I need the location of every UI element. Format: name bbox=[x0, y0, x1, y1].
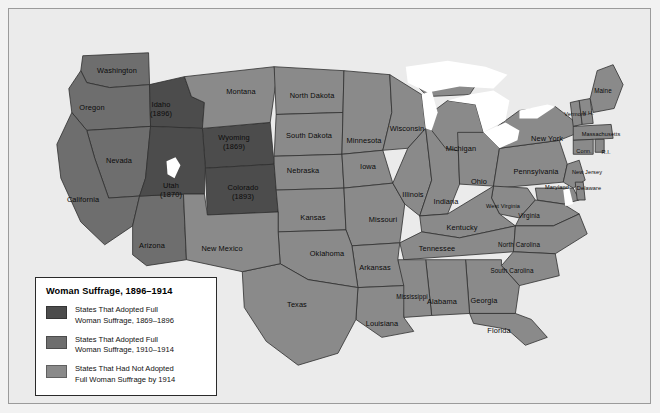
states-not-adopted bbox=[183, 65, 623, 365]
legend-label-1910-1914: States That Adopted Full Woman Suffrage,… bbox=[75, 335, 174, 357]
legend-line-2: Full Woman Suffrage by 1914 bbox=[75, 375, 175, 386]
legend-line-2: Woman Suffrage, 1869–1896 bbox=[75, 316, 174, 327]
legend-label-not-adopted: States That Had Not Adopted Full Woman S… bbox=[75, 364, 175, 386]
figure-frame: .st { stroke: #2f2f2f; stroke-width: 0.8… bbox=[8, 8, 651, 404]
legend-entry-not-adopted: States That Had Not Adopted Full Woman S… bbox=[46, 364, 208, 386]
map-figure: .st { stroke: #2f2f2f; stroke-width: 0.8… bbox=[0, 0, 660, 413]
legend-line-1: States That Adopted Full bbox=[75, 305, 174, 316]
legend-line-1: States That Had Not Adopted bbox=[75, 364, 175, 375]
map-legend: Woman Suffrage, 1896–1914 States That Ad… bbox=[35, 277, 217, 396]
legend-entry-1869-1896: States That Adopted Full Woman Suffrage,… bbox=[46, 305, 208, 327]
legend-entry-1910-1914: States That Adopted Full Woman Suffrage,… bbox=[46, 335, 208, 357]
legend-swatch-not-adopted bbox=[46, 365, 67, 378]
legend-swatch-1910-1914 bbox=[46, 336, 67, 349]
legend-line-2: Woman Suffrage, 1910–1914 bbox=[75, 345, 174, 356]
legend-label-1869-1896: States That Adopted Full Woman Suffrage,… bbox=[75, 305, 174, 327]
legend-line-1: States That Adopted Full bbox=[75, 335, 174, 346]
legend-title: Woman Suffrage, 1896–1914 bbox=[46, 286, 208, 296]
legend-swatch-1869-1896 bbox=[46, 306, 67, 319]
